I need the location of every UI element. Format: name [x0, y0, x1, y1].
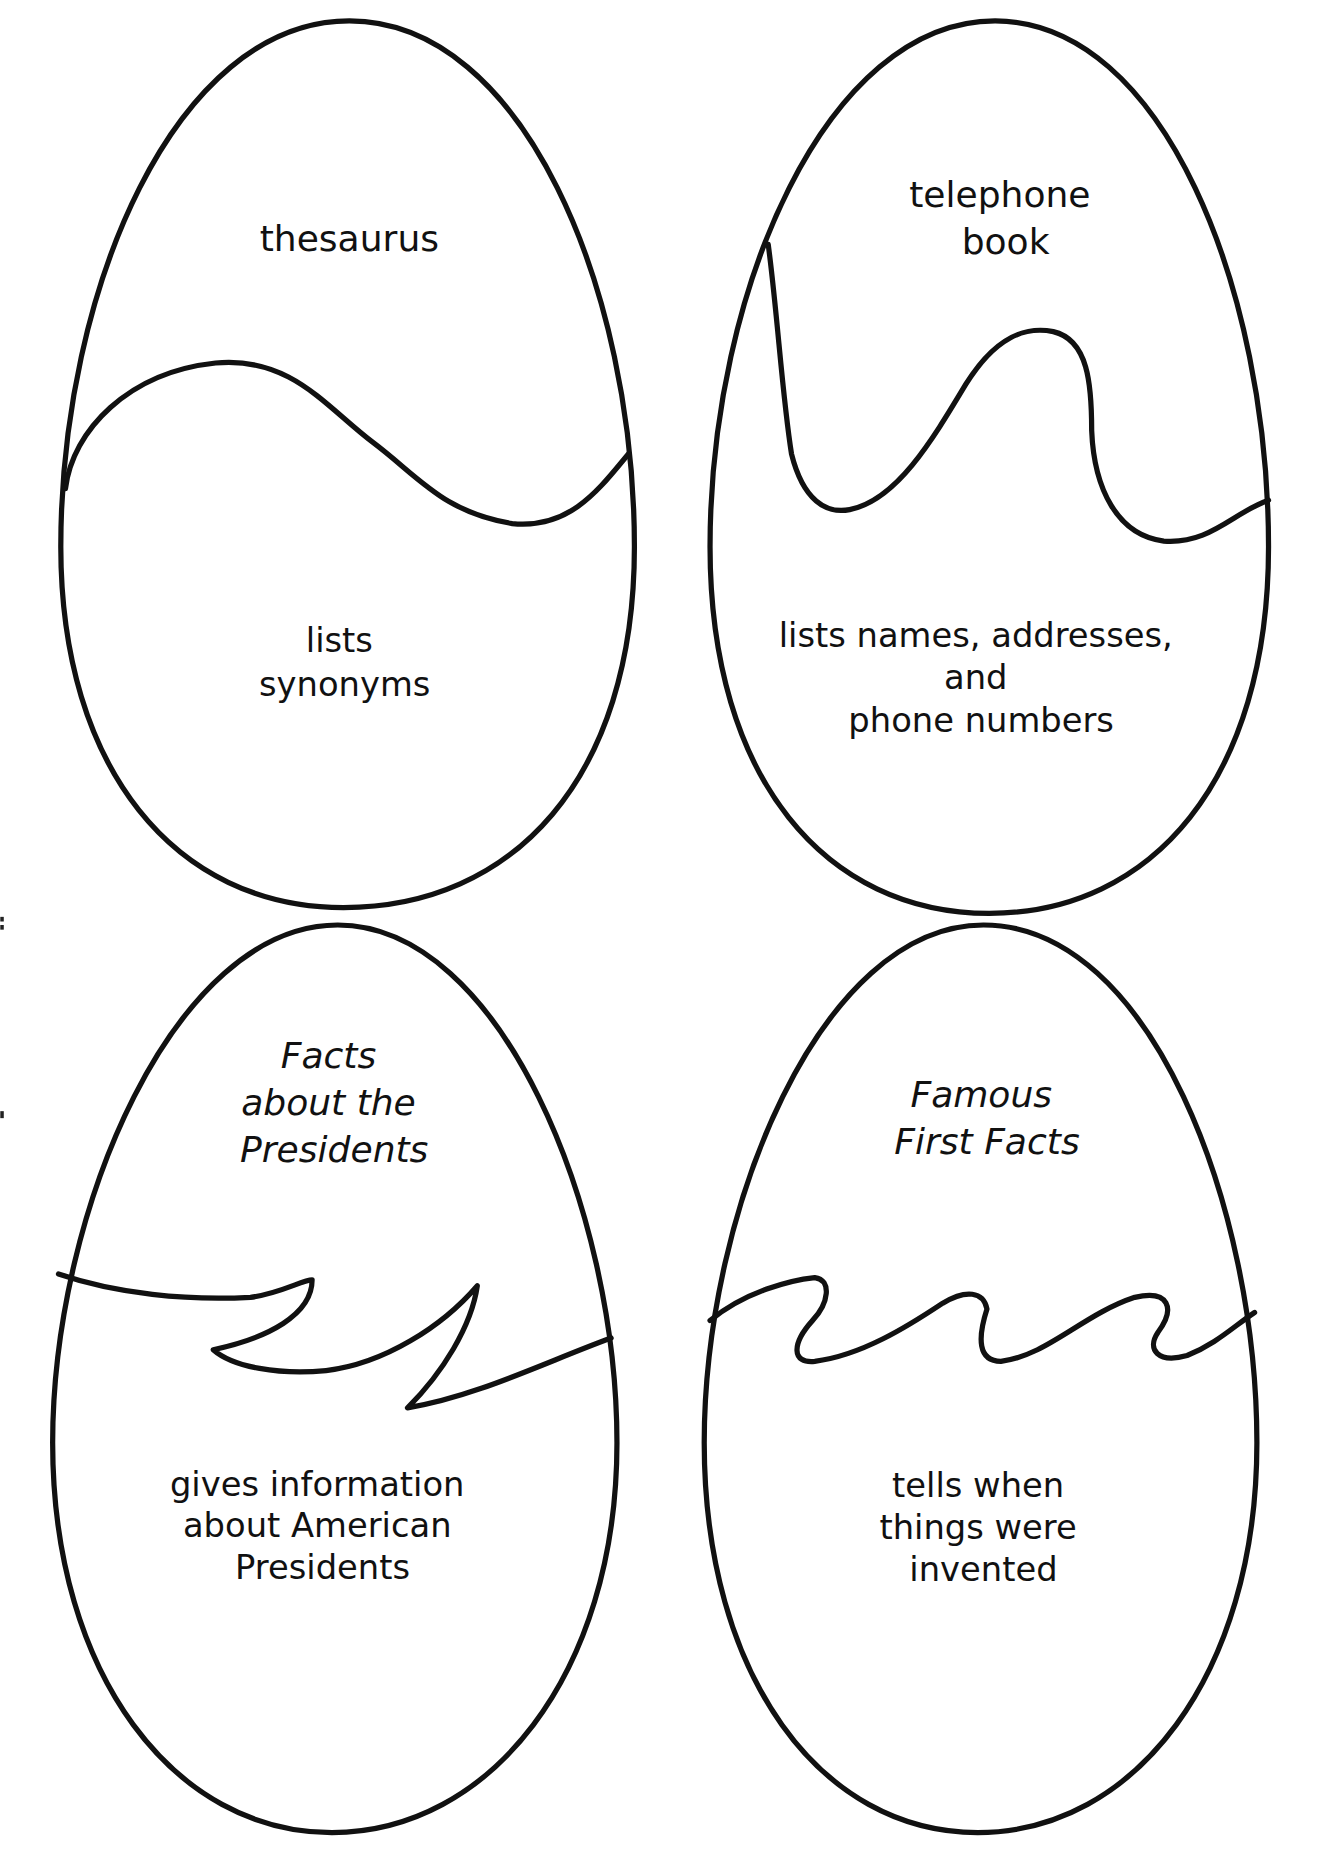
zigzag-crack [768, 244, 1268, 541]
egg-top-text: thesaurus [260, 218, 439, 260]
egg-bottom-text: lists synonyms [259, 621, 430, 704]
scan-mark [0, 1111, 3, 1118]
scan-mark [0, 925, 3, 930]
egg-telephone-book[interactable]: telephone book lists names, addresses, a… [710, 21, 1268, 913]
egg-outline [704, 925, 1257, 1833]
egg-top-text: telephone book [909, 174, 1102, 263]
egg-bottom-text: gives information about American Preside… [170, 1465, 475, 1587]
egg-top-text: Famous First Facts [894, 1074, 1080, 1164]
zigzag-crack [65, 362, 628, 524]
egg-famous-first-facts[interactable]: Famous First Facts tells when things wer… [704, 925, 1257, 1833]
worksheet-canvas: thesaurus lists synonyms telephone book … [0, 0, 1327, 1850]
egg-facts-about-the-presidents[interactable]: Facts about the Presidents gives informa… [53, 925, 617, 1833]
egg-bottom-text: lists names, addresses, and phone number… [779, 616, 1184, 740]
egg-outline [61, 21, 635, 908]
scan-mark [0, 917, 3, 922]
egg-bottom-text: tells when things were invented [879, 1466, 1087, 1589]
zigzag-crack [710, 1278, 1255, 1362]
egg-top-text: Facts about the Presidents [240, 1035, 429, 1171]
egg-thesaurus[interactable]: thesaurus lists synonyms [61, 21, 635, 908]
zigzag-crack [58, 1274, 611, 1408]
